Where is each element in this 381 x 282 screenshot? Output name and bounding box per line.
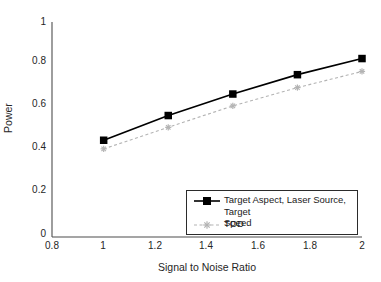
legend-key-square-icon xyxy=(192,194,222,208)
series-primary xyxy=(100,55,366,144)
data-point-marker xyxy=(229,90,237,98)
x-tick-label: 1.2 xyxy=(135,241,175,251)
data-point-marker xyxy=(294,84,300,90)
data-point-marker xyxy=(230,103,236,109)
x-axis-title: Signal to Noise Ratio xyxy=(52,261,362,273)
data-point-marker xyxy=(359,68,365,74)
series-layer xyxy=(100,55,366,152)
x-tick-label: 1.8 xyxy=(290,241,330,251)
x-tick-label: 1.4 xyxy=(186,241,226,251)
y-tick-label: 0 xyxy=(8,229,46,239)
x-tick-label: 1.6 xyxy=(238,241,278,251)
y-axis-title: Power xyxy=(2,88,14,148)
data-point-marker xyxy=(358,55,366,63)
legend-key-star-icon xyxy=(192,218,222,232)
data-point-marker xyxy=(165,112,173,120)
data-point-marker xyxy=(101,146,107,152)
data-point-marker xyxy=(165,124,171,130)
y-tick-label: 1 xyxy=(8,17,46,27)
x-tick-label: 1 xyxy=(83,241,123,251)
x-tick-label: 2 xyxy=(342,241,381,251)
series-line xyxy=(104,59,362,141)
series-line xyxy=(104,71,362,148)
x-tick-label: 0.8 xyxy=(32,241,72,251)
y-tick-label: 0.2 xyxy=(8,185,46,195)
series-secondary xyxy=(101,68,366,152)
legend-entry-primary: Target Aspect, Laser Source, Target Spee… xyxy=(187,194,357,208)
data-point-marker xyxy=(100,137,108,145)
legend-entry-secondary: TOD xyxy=(187,218,357,232)
legend-label-secondary: TOD xyxy=(224,218,356,230)
y-tick-label: 0.8 xyxy=(8,56,46,66)
legend: Target Aspect, Laser Source, Target Spee… xyxy=(186,190,358,235)
data-point-marker xyxy=(294,71,302,79)
chart-figure: 1 0.8 0.6 0.4 0.2 0 0.8 1 1.2 1.4 1.6 1.… xyxy=(0,0,381,282)
